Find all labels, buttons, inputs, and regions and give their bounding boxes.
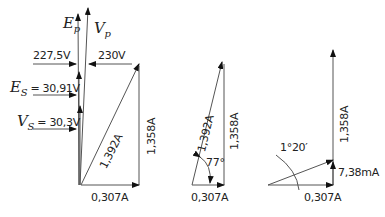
vp-label: Vp	[94, 19, 111, 39]
phasor-diagram-canvas	[0, 0, 385, 217]
vs-label: VS = 30,3V	[17, 112, 80, 132]
middle-angle-label: 77°	[206, 156, 225, 169]
middle-horizontal-label: 0,307A	[191, 191, 228, 204]
right-angle-label: 1°20′	[280, 141, 308, 154]
right-vertical-label: 1,358A	[338, 106, 351, 143]
right-resultant-current	[268, 160, 333, 185]
ep-label: Ep	[63, 14, 80, 34]
middle-vertical-label: 1,358A	[228, 113, 241, 150]
right-horizontal-label: 0,307A	[304, 191, 341, 204]
right-small-current-label: 7,38mA	[338, 166, 379, 179]
left-vertical-label: 1,358A	[145, 118, 158, 155]
ep-value: 227,5V	[33, 49, 70, 62]
es-label: ES = 30,91V	[10, 78, 80, 98]
vp-phasor	[80, 8, 88, 185]
vp-value: 230V	[98, 49, 125, 62]
left-horizontal-label: 0,307A	[91, 191, 128, 204]
